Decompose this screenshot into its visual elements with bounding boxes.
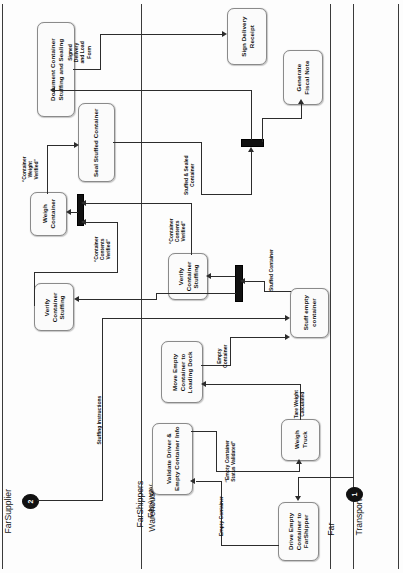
task-stuff-empty-container[interactable]: Stuff empty container — [290, 288, 329, 338]
start-event-2-label: 2 — [27, 500, 34, 504]
task-drive-empty-container-line3: FarShipper — [302, 515, 309, 549]
flow-label-container-contents-verified-a: “Container Contents Verified” — [88, 226, 116, 272]
task-validate-driver-and-empty-container-info[interactable]: Validate Driver & Empty Container Info — [152, 423, 193, 495]
flow-label-container-contents-verified-b: “Container Contents Verified” — [163, 208, 191, 254]
task-move-empty-container-line3: Loading Dock — [186, 351, 193, 393]
lane-divider-shippers-transport — [330, 4, 331, 569]
flow-tare-weight-line1: Tare Weight — [293, 390, 299, 418]
flow-label-empty-container: Empty Container — [212, 492, 230, 540]
flow-vgateway-to-verify-sup-seg2 — [156, 293, 157, 300]
task-verify-container-stuffing-supplier-line1: Verify — [43, 298, 50, 315]
flow-container-weight-verified-line2: Weight — [27, 161, 33, 178]
task-verify-container-stuffing-shipper-line3: Stuffing — [192, 264, 199, 288]
lane-label-fartransport-2: Transport — [341, 510, 397, 522]
flow-gateway-to-fiscal-seg2 — [262, 118, 302, 119]
task-stuff-empty-container-line2: container — [309, 299, 316, 328]
flow-verify-sup-to-join-seg2 — [34, 272, 118, 273]
task-drive-empty-container-line1: Drive Empty — [287, 513, 294, 550]
task-generate-fiscal-note-line2: Fiscal Note — [303, 60, 310, 94]
task-verify-container-stuffing-shipper-line1: Verify — [177, 268, 184, 285]
flow-contents-verified-a-line3: Verified” — [105, 239, 111, 260]
flow-validate-to-weightruck-seg1 — [191, 431, 217, 432]
task-verify-container-stuffing-shipper-label: Verify Container Stuffing — [177, 262, 200, 292]
flow-validate-to-weightruck-arrow — [296, 459, 302, 464]
flow-drive-to-validate-seg3 — [196, 481, 222, 482]
flow-gateway-to-doc-seg2 — [251, 90, 252, 140]
task-sign-delivery-receipt-label: Sign Delivery Receipt — [239, 16, 254, 57]
flow-verify-shp-to-join-seg1 — [86, 203, 192, 204]
task-drive-empty-container-to-farshipper[interactable]: Drive Empty Container to FarShipper — [278, 502, 319, 561]
task-weigh-truck[interactable]: Weigh Truck — [281, 419, 320, 461]
task-verify-container-stuffing-supplier-line2: Container — [50, 292, 57, 322]
flow-verify-sup-to-join-seg1 — [34, 272, 35, 306]
flow-weigh-to-seal-seg3 — [47, 145, 77, 146]
flow-vgateway-to-verify-shp-seg — [211, 276, 235, 277]
flow-gateway-to-fiscal-seg3 — [301, 103, 302, 119]
flow-label-tare-weight-calculated: Tare Weight Calculated — [287, 387, 311, 421]
flow-validate-to-weightruck-seg2 — [216, 431, 217, 472]
lane-label-farshippers-3: FarAway — [134, 494, 184, 506]
flow-ev1-to-drive-seg3 — [298, 477, 299, 497]
task-document-container-stuffing-and-sealing[interactable]: Document Container Stuffing and Sealing — [37, 22, 75, 117]
start-event-1[interactable]: 1 — [346, 487, 363, 502]
task-weigh-container-label: Weigh Container — [41, 199, 56, 229]
task-generate-fiscal-note[interactable]: Generate Fiscal Note — [283, 50, 323, 105]
start-event-2[interactable]: 2 — [22, 494, 39, 509]
task-move-empty-container-to-loading-dock[interactable]: Move Empty Container to Loading Dock — [161, 341, 203, 403]
task-seal-stuffed-container-line1: Seal Stuffed Container — [93, 108, 100, 177]
flow-verify-sup-to-join-arrow — [81, 219, 86, 225]
flow-weigh-to-seal-seg2 — [47, 145, 48, 191]
flow-verify-shp-to-join-seg2 — [191, 203, 192, 255]
org-unit-icon-farsupplier — [16, 551, 25, 559]
flow-verify-sup-to-join-seg3 — [117, 222, 118, 273]
flow-stuffed-container-line1: Stuffed Container — [268, 249, 274, 291]
flow-verify-sup-to-join-seg4 — [86, 222, 118, 223]
flow-gateway-to-doc-arrow — [50, 87, 55, 93]
flow-gateway-to-fiscal-seg1 — [262, 118, 263, 142]
lane-label-fartransport-line2: Transport — [354, 499, 364, 535]
task-verify-container-stuffing-supplier[interactable]: Verify Container Stuffing — [34, 283, 74, 331]
flow-vgateway-to-verify-shp-arrow — [206, 273, 211, 279]
flow-empty-status-line1: “Empty Container — [224, 440, 230, 483]
task-drive-empty-container-line2: Container to — [295, 513, 302, 551]
task-weigh-container[interactable]: Weigh Container — [30, 192, 67, 236]
gateway-join-fiscal-note[interactable] — [241, 139, 264, 147]
org-unit-icon-farshippers — [148, 551, 157, 559]
flow-ev1-to-drive-seg2 — [298, 477, 354, 478]
flow-ev2-to-stuff-seg1 — [37, 500, 103, 501]
flow-vgateway-to-verify-sup-seg1 — [79, 299, 157, 300]
lane-label-fartransport-line1: Far — [326, 522, 336, 535]
flow-contents-verified-a-line1: “Container — [93, 236, 99, 262]
flow-container-weight-verified-line1: “Container — [21, 156, 27, 182]
flow-doc-to-sign-seg3 — [100, 34, 224, 35]
task-drive-empty-container-label: Drive Empty Container to FarShipper — [287, 513, 310, 551]
flow-contents-verified-b-line2: Contents — [174, 220, 180, 242]
flow-stuff-to-vgateway-arrow — [240, 278, 245, 284]
flow-seal-to-gateway-seg4 — [251, 151, 252, 195]
flow-weightruck-to-move-seg2 — [206, 384, 301, 385]
flow-doc-to-sign-seg1 — [73, 69, 101, 70]
flow-label-stuffed-and-sealed-container: Stuffed & Sealed Container — [177, 148, 201, 202]
task-generate-fiscal-note-line1: Generate — [295, 64, 302, 92]
task-weigh-container-line2: Container — [49, 199, 56, 229]
flow-label-signed-delivery-and-load-form: Signed Delivery and Load Form — [62, 38, 96, 66]
task-verify-container-stuffing-shipper-line2: Container — [184, 262, 191, 292]
flow-label-stuffed-container: Stuffed Container — [262, 246, 280, 294]
task-verify-container-stuffing-supplier-line3: Stuffing — [58, 295, 65, 319]
flow-empty-container-dock-line2: Container — [223, 344, 229, 367]
flow-doc-to-sign-arrow — [222, 31, 227, 37]
task-seal-stuffed-container[interactable]: Seal Stuffed Container — [78, 103, 115, 182]
task-sign-delivery-receipt-line1: Sign Delivery — [239, 16, 246, 57]
flow-empty-status-line2: Status Validated” — [230, 440, 236, 481]
start-event-1-label: 1 — [351, 493, 358, 497]
task-stuff-empty-container-line1: Stuff empty — [302, 295, 309, 330]
task-weigh-truck-label: Weigh Truck — [293, 431, 308, 450]
task-move-empty-container-label: Move Empty Container to Loading Dock — [171, 351, 194, 393]
flow-label-empty-container-dock: Empty Container — [212, 340, 234, 372]
flow-stuffing-instructions-line1: Stuffing Instructions — [96, 396, 102, 445]
flow-join-to-weigh-seg — [70, 212, 78, 213]
flow-drive-to-validate-seg1 — [222, 545, 279, 546]
task-sign-delivery-receipt[interactable]: Sign Delivery Receipt — [227, 8, 267, 65]
flow-ev2-to-stuff-seg3 — [102, 318, 286, 319]
flow-signed-delivery-line1: Signed — [67, 44, 73, 61]
